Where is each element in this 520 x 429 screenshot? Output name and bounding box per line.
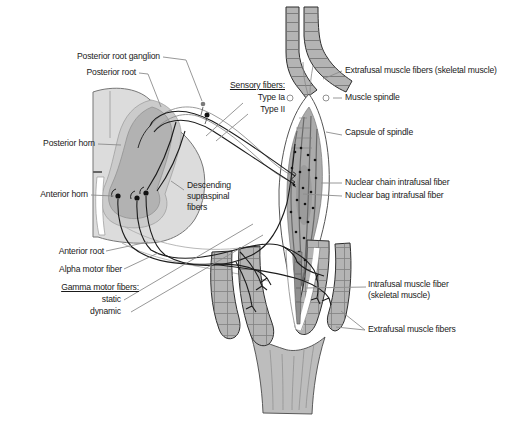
anterior-root-leader xyxy=(106,242,148,251)
label-posterior-root: Posterior root xyxy=(87,67,136,78)
extrafusal-muscle-bottom xyxy=(211,240,351,346)
label-type-ii: Type II xyxy=(260,104,285,115)
label-extrafusal-bottom: Extrafusal muscle fibers xyxy=(368,324,456,335)
label-type-ia: Type Ia xyxy=(258,92,285,103)
label-gamma-static: static xyxy=(102,294,121,305)
posterior-root-ganglion-leader xyxy=(163,57,202,101)
label-descending-supraspinal-fibers: Descending supraspinal fibers xyxy=(187,180,247,213)
spinal-cord xyxy=(93,88,205,243)
muscle-belly xyxy=(251,335,325,414)
label-muscle-spindle: Muscle spindle xyxy=(345,92,400,103)
capsule-leader xyxy=(326,132,342,135)
spindle-pole-ring-right xyxy=(323,95,329,101)
spindle-pole-ring-left xyxy=(287,95,293,101)
label-extrafusal-top: Extrafusal muscle fibers (skeletal muscl… xyxy=(345,65,497,76)
label-nuclear-bag: Nuclear bag intrafusal fiber xyxy=(345,190,444,201)
label-anterior-horn: Anterior horn xyxy=(40,189,88,200)
label-gamma-dynamic: dynamic xyxy=(90,306,121,317)
label-anterior-root: Anterior root xyxy=(59,246,104,257)
figure-canvas: Posterior root ganglion Posterior root P… xyxy=(0,0,520,429)
label-gamma-motor-fibers-heading: Gamma motor fibers: xyxy=(61,282,139,293)
extrafusal-muscle-top xyxy=(286,7,352,98)
label-capsule-of-spindle: Capsule of spindle xyxy=(345,127,413,138)
alpha-motor-fiber-leader xyxy=(124,253,158,269)
label-intrafusal-fiber: Intrafusal muscle fiber (skeletal muscle… xyxy=(368,279,464,301)
type-ii-leader xyxy=(216,114,248,141)
label-posterior-horn: Posterior horn xyxy=(43,138,95,149)
label-alpha-motor-fiber: Alpha motor fiber xyxy=(59,264,122,275)
label-posterior-root-ganglion: Posterior root ganglion xyxy=(77,51,160,62)
label-sensory-fibers-heading: Sensory fibers: xyxy=(230,80,285,91)
label-nuclear-chain: Nuclear chain intrafusal fiber xyxy=(345,177,449,188)
